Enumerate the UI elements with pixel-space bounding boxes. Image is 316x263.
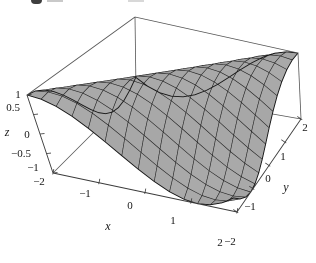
- z-axis-label: z: [5, 126, 10, 138]
- z-tick-label: 1: [15, 89, 21, 100]
- x-tick-label: −2: [33, 176, 45, 187]
- z-tick-label: −0.5: [11, 147, 31, 158]
- cropped-text-fragment: [128, 0, 144, 2]
- y-tick-label: −2: [224, 236, 236, 247]
- y-tick-label: 2: [302, 122, 308, 133]
- y-tick-label: 0: [265, 173, 271, 184]
- y-axis-label: y: [283, 181, 288, 193]
- y-tick-label: −1: [244, 200, 256, 211]
- x-tick-label: 2: [217, 237, 223, 248]
- surface-plot-canvas: [0, 0, 316, 263]
- y-tick-label: 1: [280, 151, 286, 162]
- surface-plot-figure: x y z −1−0.500.51−2−1012−2−1012: [0, 0, 316, 263]
- x-axis-label: x: [105, 220, 110, 232]
- x-tick-label: 0: [127, 199, 133, 210]
- z-tick-label: 0.5: [6, 102, 20, 113]
- z-tick-label: −1: [27, 162, 39, 173]
- cropped-text-fragment: [47, 0, 63, 2]
- z-tick-label: 0: [24, 129, 30, 140]
- x-tick-label: −1: [79, 187, 91, 198]
- x-tick-label: 1: [170, 215, 176, 226]
